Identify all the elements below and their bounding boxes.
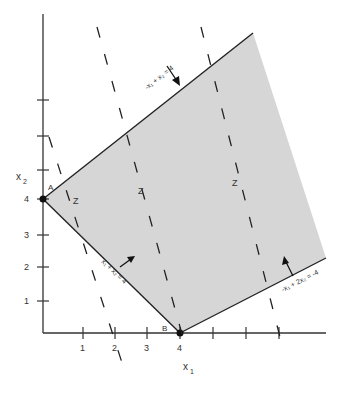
svg-text:2: 2 — [23, 178, 27, 185]
x-axis-label: x 1 — [183, 361, 194, 375]
y-tick-labels: 1 2 3 4 — [24, 194, 29, 306]
svg-text:1: 1 — [24, 296, 29, 306]
svg-text:2: 2 — [112, 343, 117, 353]
y-axis-label: x 2 — [16, 171, 27, 185]
lp-diagram: 1 2 3 4 1 2 3 4 x 2 x 1 A B Z Z Z — [0, 0, 348, 394]
svg-text:4: 4 — [24, 194, 29, 204]
svg-text:1: 1 — [80, 343, 85, 353]
objective-label-3: Z — [232, 178, 238, 188]
svg-text:3: 3 — [144, 343, 149, 353]
svg-text:x: x — [16, 171, 21, 182]
objective-label-1: Z — [73, 196, 79, 206]
vertex-a-dot — [40, 196, 47, 203]
svg-text:2: 2 — [24, 262, 29, 272]
vertex-b-label: B — [162, 324, 167, 333]
svg-text:3: 3 — [24, 230, 29, 240]
svg-text:1: 1 — [190, 368, 194, 375]
objective-label-2: Z — [138, 186, 144, 196]
svg-text:4: 4 — [177, 343, 182, 353]
x-tick-labels: 1 2 3 4 — [80, 343, 182, 353]
vertex-a-label: A — [48, 183, 54, 192]
constraint-label-upper: -x₁ + x₂ = 4 — [143, 64, 174, 91]
svg-text:x: x — [183, 361, 188, 372]
vertex-b-dot — [177, 330, 184, 337]
